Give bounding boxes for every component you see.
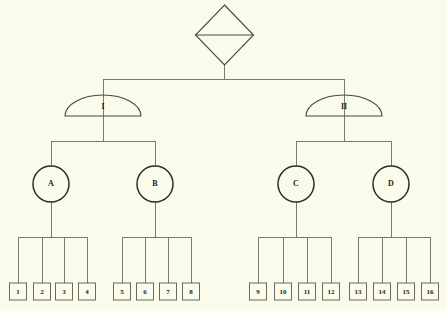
leaf-box-label: 13 (355, 288, 363, 296)
leaf-box-label: 15 (403, 288, 411, 296)
leaf-node-13[interactable]: 13 (350, 283, 367, 300)
leaf-box-label: 16 (427, 288, 435, 296)
leaf-box-label: 2 (40, 288, 44, 296)
leaf-node-11[interactable]: 11 (299, 283, 316, 300)
leaf-node-2[interactable]: 2 (34, 283, 51, 300)
tree-diagram-canvas: I II A B C D 12345678910111213141516 (0, 0, 447, 311)
level1-label-II: II (341, 102, 347, 111)
diagram-background (0, 0, 447, 311)
leaf-node-4[interactable]: 4 (79, 283, 96, 300)
leaf-node-15[interactable]: 15 (398, 283, 415, 300)
leaf-node-3[interactable]: 3 (56, 283, 73, 300)
leaf-box-label: 3 (62, 288, 66, 296)
leaf-box-label: 5 (120, 288, 124, 296)
leaf-box-label: 4 (85, 288, 89, 296)
leaf-box-label: 6 (143, 288, 147, 296)
leaf-box-label: 1 (16, 288, 20, 296)
leaf-box-label: 14 (379, 288, 387, 296)
level2-label-A: A (48, 179, 54, 188)
leaf-box-label: 8 (189, 288, 193, 296)
leaf-node-14[interactable]: 14 (374, 283, 391, 300)
leaf-node-1[interactable]: 1 (10, 283, 27, 300)
leaf-node-16[interactable]: 16 (422, 283, 439, 300)
tree-diagram-svg: I II A B C D 12345678910111213141516 (0, 0, 447, 311)
level2-label-C: C (293, 179, 299, 188)
leaf-box-label: 10 (280, 288, 288, 296)
level1-label-I: I (101, 102, 104, 111)
leaf-node-7[interactable]: 7 (160, 283, 177, 300)
level2-label-B: B (152, 179, 158, 188)
leaf-box-label: 7 (166, 288, 170, 296)
level2-label-D: D (388, 179, 394, 188)
leaf-node-10[interactable]: 10 (275, 283, 292, 300)
leaf-node-8[interactable]: 8 (183, 283, 200, 300)
leaf-node-5[interactable]: 5 (114, 283, 131, 300)
leaf-node-6[interactable]: 6 (137, 283, 154, 300)
leaf-box-label: 9 (256, 288, 260, 296)
leaf-node-9[interactable]: 9 (250, 283, 267, 300)
leaf-node-12[interactable]: 12 (323, 283, 340, 300)
leaf-box-label: 11 (304, 288, 311, 296)
leaf-box-label: 12 (328, 288, 336, 296)
